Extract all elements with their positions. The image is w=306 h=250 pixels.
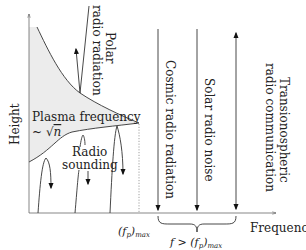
polar-label-1: Polar xyxy=(103,32,117,64)
polar-radiation-line xyxy=(80,6,89,93)
radio-sounding-label-2: sounding xyxy=(62,158,118,172)
frequency-brace xyxy=(158,216,236,232)
ionosphere-frequency-diagram: Height Frequency (fp)max f > (fp)max Pla… xyxy=(0,0,306,250)
sounding-ray-1 xyxy=(38,158,51,213)
transionospheric-label-2: radio communication xyxy=(263,63,277,192)
sounding-ray-2 xyxy=(75,170,79,213)
cosmic-radiation-label: Cosmic radio radiation xyxy=(163,60,177,199)
radio-sounding-label-1: Radio xyxy=(72,145,107,159)
brace-condition-label: f > (fp)max xyxy=(169,236,222,250)
fp-max-label: (fp)max xyxy=(118,225,150,239)
polar-radiation-arrow xyxy=(76,49,80,93)
x-axis-label: Frequency xyxy=(250,221,306,235)
solar-noise-label: Solar radio noise xyxy=(202,78,216,182)
plasma-frequency-region xyxy=(29,27,139,162)
transionospheric-label-1: Transionospheric xyxy=(277,77,291,183)
plasma-sqrt-n-label: ~ √n xyxy=(32,125,61,139)
polar-label-2: radio radiation xyxy=(90,5,104,96)
plasma-frequency-label: Plasma frequency xyxy=(32,110,141,124)
y-axis-label: Height xyxy=(8,103,22,145)
